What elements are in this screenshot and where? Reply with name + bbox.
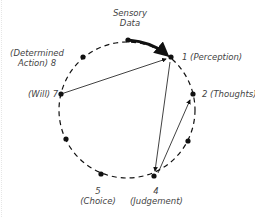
sensory-data-label: Sensory Data [108, 8, 152, 28]
node-7-dot [58, 91, 63, 96]
node-3-dot [185, 138, 190, 143]
sensory-data-line2: Data [108, 18, 152, 28]
node-5-label: 5 (Choice) [76, 186, 120, 206]
node-7-label: (Will) 7 [28, 89, 58, 99]
node-1-dot [168, 54, 173, 59]
arrow-perception-to-judgement [155, 62, 170, 171]
node-8-line1: (Determined [6, 48, 68, 58]
node-2-dot [190, 91, 195, 96]
node-4-label: 4 (Judgement) [130, 186, 182, 206]
node-2-label: 2 (Thoughts) [202, 89, 255, 99]
cycle-diagram-graphic [0, 0, 255, 217]
node-6-dot [63, 136, 68, 141]
node-8-label: (Determined Action) 8 [6, 48, 68, 68]
node-5-number: 5 [76, 186, 120, 196]
sensory-data-line1: Sensory [108, 8, 152, 18]
node-1-label: 1 (Perception) [182, 52, 242, 62]
node-4-text: (Judgement) [130, 196, 182, 206]
node-8-dot [80, 54, 85, 59]
node-4-dot [151, 173, 156, 178]
node-5-dot [98, 171, 103, 176]
sensory-data-arrow [128, 40, 166, 54]
cycle-diagram: Sensory Data 1 (Perception) 2 (Thoughts)… [0, 0, 255, 217]
arrow-judgement-to-thoughts [158, 100, 190, 173]
cycle-circle [59, 42, 195, 178]
node-5-text: (Choice) [76, 196, 120, 206]
node-8-line2: Action) 8 [6, 58, 68, 68]
node-4-number: 4 [130, 186, 182, 196]
node-sensory-dot [125, 37, 130, 42]
